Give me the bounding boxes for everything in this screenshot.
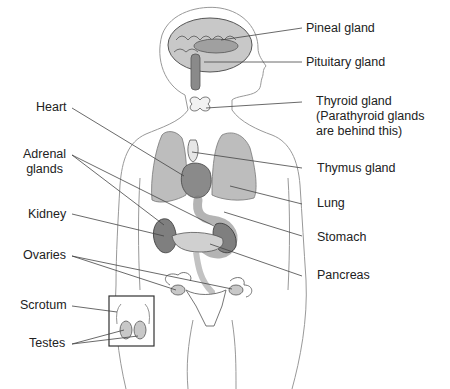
label-kidney: Kidney [28,207,66,222]
heart-icon [181,163,211,198]
brain-icon [168,18,252,90]
adrenal-line2: glands [23,162,66,177]
label-adrenal-glands: Adrenal glands [23,147,66,177]
label-pancreas: Pancreas [317,268,370,283]
label-thyroid-gland: Thyroid gland (Parathyroid glands are be… [316,94,424,139]
label-pituitary-gland: Pituitary gland [306,55,385,70]
label-scrotum: Scrotum [20,298,67,313]
label-stomach: Stomach [317,230,366,245]
pancreas-icon [172,232,223,252]
thyroid-line2: (Parathyroid glands [316,109,424,124]
label-heart: Heart [36,100,67,115]
label-ovaries: Ovaries [23,248,66,263]
thyroid-line1: Thyroid gland [316,94,424,109]
label-lung: Lung [317,196,345,211]
adrenal-line1: Adrenal [23,147,66,162]
thymus-icon [188,140,198,162]
ovary-left-icon [171,285,185,295]
ovary-right-icon [229,285,243,295]
label-pineal-gland: Pineal gland [306,21,375,36]
endocrine-diagram: Pineal gland Pituitary gland Thyroid gla… [0,0,450,389]
label-thymus-gland: Thymus gland [317,161,396,176]
label-testes: Testes [29,336,65,351]
thyroid-line3: are behind this) [316,124,424,139]
uterus-icon [165,273,251,326]
thyroid-icon [190,97,210,111]
